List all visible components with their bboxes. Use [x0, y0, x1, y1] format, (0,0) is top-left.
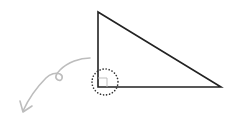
arrow-curve: [23, 58, 90, 111]
curved-arrow-icon: [20, 58, 90, 112]
right-angle-highlight-circle: [92, 69, 118, 95]
right-angle-marker: [98, 78, 107, 87]
right-triangle-diagram: [0, 0, 236, 126]
